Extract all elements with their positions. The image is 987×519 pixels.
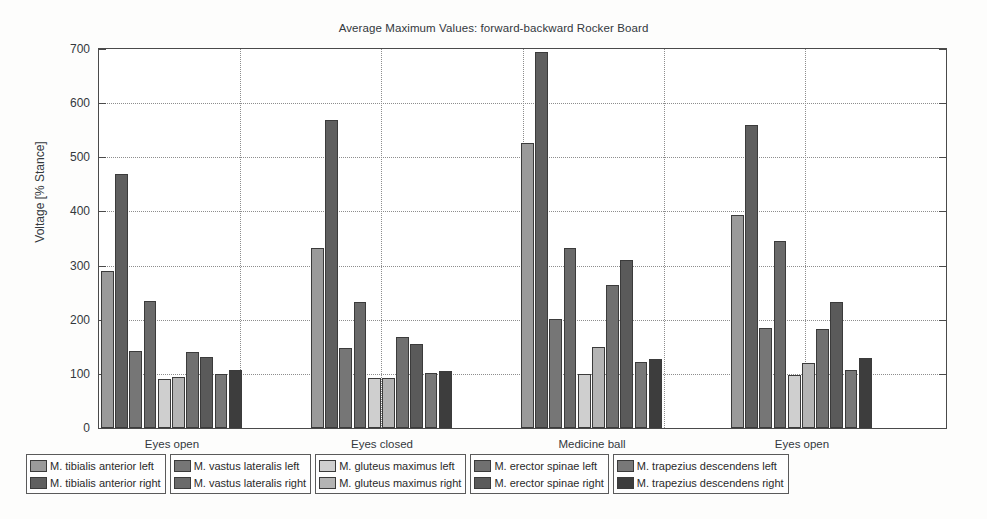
legend-swatch-icon [474,477,491,489]
bar [115,174,128,428]
bar [311,248,324,428]
legend-item[interactable]: M. erector spinae left [474,458,603,473]
bar [759,328,772,428]
y-tick-mark [939,103,946,104]
legend-swatch-icon [174,460,191,472]
bar [592,347,605,428]
bar [802,363,815,428]
chart-title: Average Maximum Values: forward-backward… [0,22,987,34]
x-category-label: Medicine ball [558,438,625,450]
bar [339,348,352,428]
bar [788,375,801,428]
bar-group: Eyes open [101,49,243,428]
y-tick-mark [939,157,946,158]
bar [578,374,591,428]
bar [521,143,534,428]
bar-group: Eyes open [731,49,873,428]
y-tick-label: 600 [30,96,90,110]
bar [215,374,228,428]
bar [606,285,619,428]
legend-swatch-icon [319,460,336,472]
plot-area: 0100200300400500600700Eyes openEyes clos… [98,48,947,429]
bar [382,378,395,428]
legend-item[interactable]: M. vastus lateralis right [174,475,306,490]
bar-group: Medicine ball [521,49,663,428]
y-tick-mark [939,49,946,50]
legend-label: M. trapezius descendens left [637,460,777,472]
bar [172,377,185,428]
bar [635,362,648,428]
y-tick-label: 200 [30,313,90,327]
legend-item[interactable]: M. tibialis anterior right [30,475,161,490]
bar [425,373,438,428]
bar [649,359,662,428]
x-gridline [664,49,665,428]
y-tick-label: 400 [30,204,90,218]
bar [859,358,872,428]
legend-column: M. gluteus maximus leftM. gluteus maximu… [315,454,466,494]
y-tick-label: 300 [30,259,90,273]
bar [158,379,171,428]
legend-item[interactable]: M. gluteus maximus left [319,458,461,473]
legend-swatch-icon [319,477,336,489]
y-tick-label: 0 [30,421,90,435]
bar [845,370,858,428]
bar [129,351,142,428]
bar [535,52,548,428]
x-category-label: Eyes closed [351,438,413,450]
y-tick-mark [939,428,946,429]
y-tick-mark [939,211,946,212]
bar [186,352,199,428]
legend-swatch-icon [174,477,191,489]
legend-item[interactable]: M. erector spinae right [474,475,603,490]
legend-swatch-icon [30,477,47,489]
legend-item[interactable]: M. vastus lateralis left [174,458,306,473]
bar [325,120,338,428]
legend-column: M. trapezius descendens leftM. trapezius… [613,454,789,494]
bar [144,301,157,428]
legend-column: M. erector spinae leftM. erector spinae … [470,454,608,494]
bar [830,302,843,428]
legend-label: M. gluteus maximus left [339,460,455,472]
chart-legend: M. tibialis anterior leftM. tibialis ant… [26,454,789,494]
y-tick-label: 500 [30,150,90,164]
legend-swatch-icon [30,460,47,472]
bar [745,125,758,428]
y-tick-mark [99,428,106,429]
legend-label: M. vastus lateralis left [194,460,300,472]
chart-figure: Average Maximum Values: forward-backward… [0,0,987,519]
y-tick-mark [939,266,946,267]
legend-label: M. trapezius descendens right [637,477,784,489]
legend-label: M. tibialis anterior left [50,460,154,472]
legend-label: M. erector spinae left [494,460,597,472]
x-category-label: Eyes open [145,438,199,450]
bar [410,344,423,428]
bar [564,248,577,428]
legend-item[interactable]: M. tibialis anterior left [30,458,161,473]
legend-label: M. erector spinae right [494,477,603,489]
legend-label: M. vastus lateralis right [194,477,306,489]
y-tick-label: 100 [30,367,90,381]
plot-inner: 0100200300400500600700Eyes openEyes clos… [99,49,946,428]
bar [816,329,829,428]
bar [101,271,114,428]
legend-column: M. vastus lateralis leftM. vastus latera… [170,454,311,494]
legend-swatch-icon [474,460,491,472]
legend-item[interactable]: M. trapezius descendens right [617,475,784,490]
legend-item[interactable]: M. trapezius descendens left [617,458,784,473]
y-tick-mark [939,320,946,321]
legend-swatch-icon [617,477,634,489]
legend-label: M. tibialis anterior right [50,477,161,489]
legend-label: M. gluteus maximus right [339,477,461,489]
bar [368,378,381,428]
legend-item[interactable]: M. gluteus maximus right [319,475,461,490]
legend-column: M. tibialis anterior leftM. tibialis ant… [26,454,166,494]
legend-swatch-icon [617,460,634,472]
bar [354,302,367,428]
bar [549,319,562,428]
y-tick-label: 700 [30,42,90,56]
bar [620,260,633,428]
bar [439,371,452,428]
bar [774,241,787,428]
y-tick-mark [939,374,946,375]
